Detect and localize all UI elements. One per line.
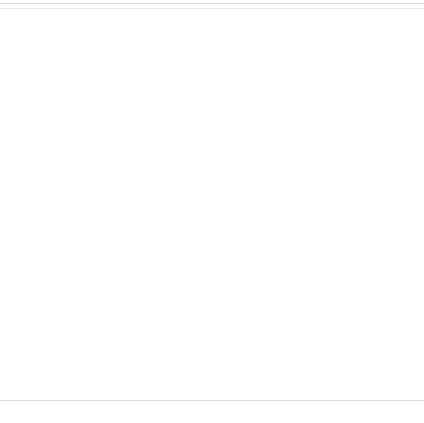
chart-container — [0, 0, 424, 423]
three-d-bar-chart — [0, 0, 424, 423]
